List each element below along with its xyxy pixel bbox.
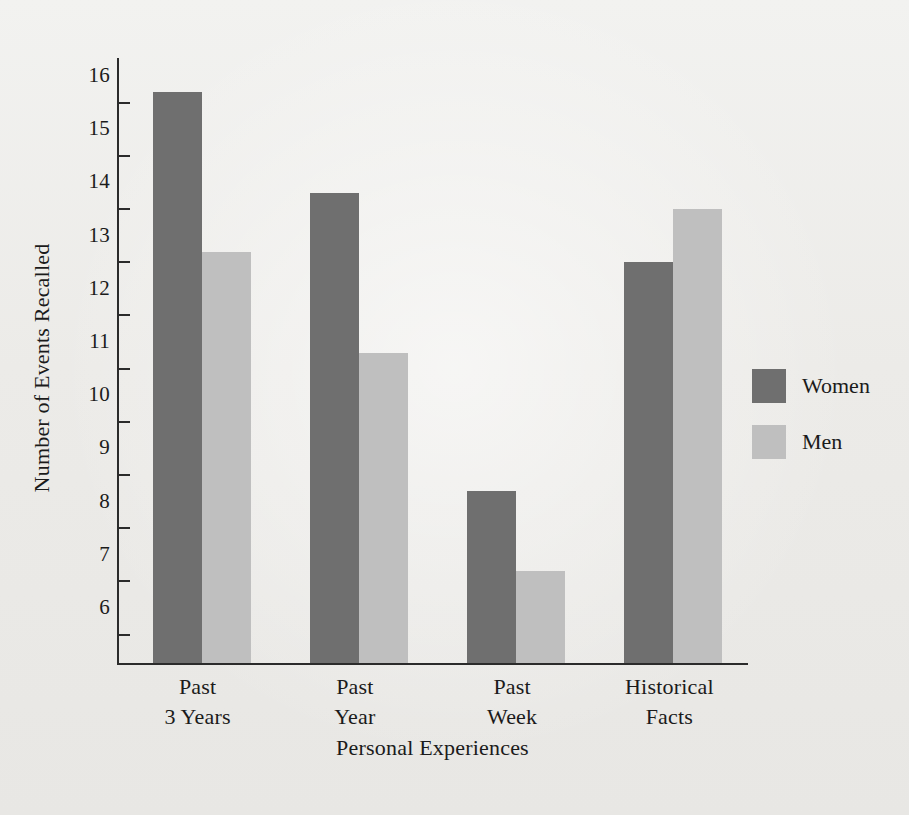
x-axis-category-label-line: Facts: [577, 702, 762, 732]
x-axis-title: Personal Experiences: [117, 735, 748, 761]
y-axis-tick-label: 12: [70, 278, 110, 299]
bar-women-3: [624, 262, 673, 663]
y-axis-tick-label: 16: [70, 65, 110, 86]
y-axis-title: Number of Events Recalled: [29, 158, 55, 578]
bar-men-0: [202, 252, 251, 663]
y-axis-tick: [119, 527, 130, 529]
y-axis-tick-label: 10: [70, 384, 110, 405]
y-axis-tick-label: 14: [70, 171, 110, 192]
y-axis-tick-label: 15: [70, 118, 110, 139]
y-axis-tick: [119, 102, 130, 104]
y-axis-tick: [119, 421, 130, 423]
y-axis-tick: [119, 580, 130, 582]
y-axis-tick-labels: 161514131211109876: [60, 0, 110, 700]
x-axis-category-label-line: Historical: [577, 672, 762, 702]
legend: WomenMen: [752, 358, 902, 470]
legend-item-men: Men: [752, 414, 902, 470]
bar-men-2: [516, 571, 565, 663]
legend-swatch-men: [752, 425, 786, 459]
y-axis-tick: [119, 208, 130, 210]
y-axis-tick: [119, 368, 130, 370]
x-axis-category-label: HistoricalFacts: [577, 672, 762, 732]
y-axis-tick-label: 13: [70, 225, 110, 246]
bar-chart-plot: 161514131211109876 Number of Events Reca…: [0, 0, 909, 815]
bar-women-2: [467, 491, 516, 663]
legend-item-women: Women: [752, 358, 902, 414]
y-axis-tick-label: 7: [70, 544, 110, 565]
bar-men-3: [673, 209, 722, 663]
y-axis-tick: [119, 261, 130, 263]
y-axis-tick: [119, 634, 130, 636]
y-axis-tick-label: 8: [70, 491, 110, 512]
chart-page: 161514131211109876 Number of Events Reca…: [0, 0, 909, 815]
y-axis-tick-label: 9: [70, 437, 110, 458]
legend-label: Women: [802, 373, 870, 399]
y-axis-tick-label: 6: [70, 597, 110, 618]
bar-women-1: [310, 193, 359, 663]
y-axis-tick: [119, 155, 130, 157]
bar-women-0: [153, 92, 202, 663]
bar-men-1: [359, 353, 408, 663]
legend-label: Men: [802, 429, 842, 455]
y-axis-line: [117, 58, 119, 665]
legend-swatch-women: [752, 369, 786, 403]
y-axis-tick: [119, 474, 130, 476]
y-axis-tick-label: 11: [70, 331, 110, 352]
x-axis-line: [117, 663, 748, 665]
y-axis-tick: [119, 314, 130, 316]
